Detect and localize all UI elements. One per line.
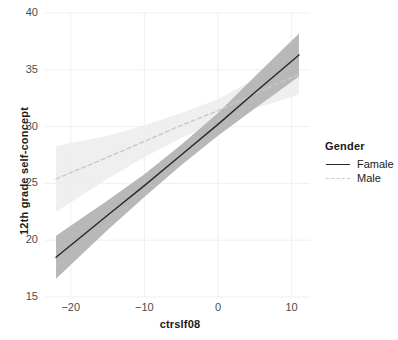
- x-axis-title: ctrslf08: [45, 318, 315, 330]
- x-tick-label: −20: [51, 302, 91, 313]
- legend-title: Gender: [325, 140, 398, 152]
- legend-label-male: Male: [351, 172, 381, 184]
- legend-item-male: Male: [325, 171, 398, 185]
- confidence-ribbons: [56, 33, 299, 278]
- x-tick-label: 0: [198, 302, 238, 313]
- legend-item-famale: Famale: [325, 157, 398, 171]
- y-tick-label: 20: [12, 234, 38, 245]
- x-tick-label: −10: [124, 302, 164, 313]
- legend-swatch-dashed-line: [325, 172, 351, 184]
- legend-swatch-solid-line: [325, 158, 351, 170]
- regression-plot: 152025303540 −20−10010 ctrslf08 12th gra…: [0, 0, 398, 340]
- legend-label-famale: Famale: [351, 158, 394, 170]
- y-tick-label: 40: [12, 7, 38, 18]
- y-tick-label: 15: [12, 291, 38, 302]
- legend: Gender Famale Male: [325, 140, 398, 185]
- x-tick-label: 10: [272, 302, 312, 313]
- y-axis-title: 12th grade self-concept: [18, 107, 30, 235]
- y-tick-label: 35: [12, 64, 38, 75]
